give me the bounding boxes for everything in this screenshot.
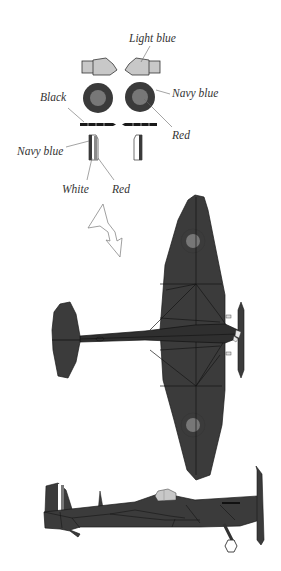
label-black: Black — [40, 91, 67, 103]
tail-flash-left — [89, 135, 98, 160]
canopy-part-left — [82, 58, 117, 75]
label-red-flash: Red — [111, 183, 130, 195]
curved-arrow-icon — [88, 204, 122, 257]
exhaust-strip-right — [122, 123, 157, 127]
label-white: White — [62, 183, 89, 195]
canopy-part-right — [125, 58, 160, 75]
spitfire-side-view — [44, 466, 264, 552]
label-red-roundel: Red — [171, 129, 190, 141]
label-navy-blue-flash: Navy blue — [16, 145, 63, 158]
tail-flash-right — [134, 135, 142, 160]
spitfire-assembly-diagram: Light blue Navy blue Black Red Navy blue… — [0, 0, 281, 571]
roundel-left — [83, 83, 113, 113]
wheel-icon — [225, 540, 237, 552]
spitfire-top-view — [52, 195, 244, 480]
roundel-right — [125, 82, 155, 112]
exhaust-strip-left — [80, 123, 116, 127]
label-navy-blue-roundel: Navy blue — [171, 87, 218, 100]
label-light-blue: Light blue — [128, 32, 176, 45]
